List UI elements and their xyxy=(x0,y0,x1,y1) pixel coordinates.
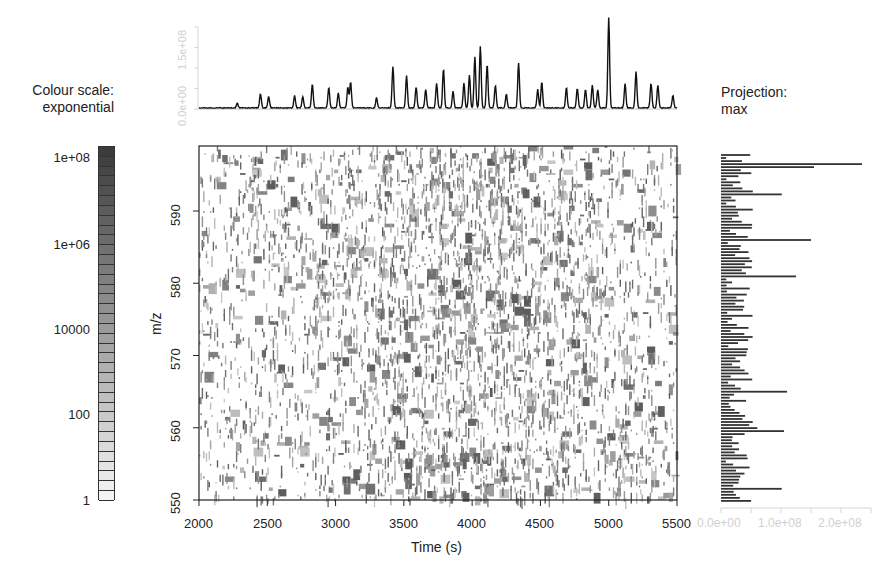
heatmap-cell xyxy=(254,352,255,361)
heatmap-cell xyxy=(556,316,557,327)
heatmap-cell xyxy=(435,428,436,435)
heatmap-cell xyxy=(285,244,286,249)
heatmap-cell xyxy=(520,247,521,254)
heatmap-cell xyxy=(352,170,353,172)
heatmap-cell xyxy=(258,406,259,415)
heatmap-cell xyxy=(571,229,572,234)
heatmap-cell xyxy=(388,291,389,300)
heatmap-cell xyxy=(478,412,479,416)
heatmap-cell xyxy=(502,350,503,361)
heatmap-cell xyxy=(382,439,383,443)
heatmap-cell xyxy=(643,395,646,399)
heatmap-cell xyxy=(547,160,555,164)
heatmap-cell xyxy=(437,383,444,385)
heatmap-cell xyxy=(340,413,341,417)
heatmap-cell xyxy=(428,388,429,390)
heatmap-cell xyxy=(446,431,447,438)
heatmap-cell xyxy=(430,466,436,477)
heatmap-cell xyxy=(547,300,548,311)
heatmap-cell xyxy=(594,468,595,477)
heatmap-cell xyxy=(284,207,292,211)
heatmap-cell xyxy=(525,231,526,236)
heatmap-cell xyxy=(266,303,267,312)
heatmap-cell xyxy=(356,381,357,383)
heatmap-cell xyxy=(233,222,234,231)
heatmap-cell xyxy=(523,153,524,155)
heatmap-cell xyxy=(379,366,380,368)
heatmap-cell xyxy=(596,372,597,383)
heatmap-cell xyxy=(415,341,416,350)
projection-bar xyxy=(721,452,735,454)
heatmap-cell xyxy=(554,339,555,346)
heatmap-cell xyxy=(666,314,667,321)
heatmap-cell xyxy=(435,350,436,352)
heatmap-cell xyxy=(553,211,554,216)
heatmap-cell xyxy=(602,296,603,303)
heatmap-cell xyxy=(456,339,464,344)
heatmap-cell xyxy=(310,426,311,437)
heatmap-cell xyxy=(457,347,458,356)
heatmap-cell xyxy=(338,262,339,264)
heatmap-cell xyxy=(547,256,548,258)
heatmap-cell xyxy=(301,301,302,303)
heatmap-cell xyxy=(472,179,473,184)
heatmap-cell xyxy=(510,300,511,307)
heatmap-cell xyxy=(472,457,473,459)
projection-bar xyxy=(721,188,742,190)
heatmap-cell xyxy=(643,372,644,377)
heatmap-cell xyxy=(403,410,404,412)
projection-bar xyxy=(721,191,753,193)
heatmap-cell xyxy=(236,285,240,289)
heatmap-cell xyxy=(621,448,622,450)
heatmap-cell xyxy=(622,260,623,269)
heatmap-cell xyxy=(506,493,507,495)
heatmap-cell xyxy=(254,422,255,426)
heatmap-cell xyxy=(311,368,312,375)
heatmap-cell xyxy=(224,278,225,285)
heatmap-cell xyxy=(430,366,431,368)
heatmap-cell xyxy=(386,356,387,358)
heatmap-cell xyxy=(404,269,405,274)
heatmap-cell xyxy=(368,218,374,222)
heatmap-cell xyxy=(513,446,514,448)
heatmap-cell xyxy=(516,206,517,215)
heatmap-cell xyxy=(557,493,558,495)
heatmap-cell xyxy=(348,348,358,353)
heatmap-cell xyxy=(513,343,514,352)
heatmap-cell xyxy=(408,332,409,339)
heatmap-cell xyxy=(564,393,565,395)
x-tick-2000: 2000 xyxy=(184,516,213,531)
heatmap-cell xyxy=(475,251,482,255)
heatmap-cell xyxy=(394,298,395,303)
heatmap-cell xyxy=(412,175,413,184)
heatmap-cell xyxy=(450,408,451,410)
heatmap-cell xyxy=(655,466,656,473)
heatmap-cell xyxy=(521,406,522,413)
heatmap-cell xyxy=(379,216,380,218)
heatmap-cell xyxy=(441,260,442,265)
heatmap-cell xyxy=(655,258,656,269)
heatmap-cell xyxy=(347,189,348,193)
heatmap-cell xyxy=(484,328,485,335)
heatmap-cell xyxy=(243,337,244,341)
heatmap-cell xyxy=(277,390,278,399)
heatmap-cell xyxy=(588,202,589,207)
heatmap-cell xyxy=(515,459,516,464)
heatmap-cell xyxy=(624,318,625,320)
heatmap-cell xyxy=(483,253,484,262)
heatmap-cell xyxy=(203,363,204,367)
heatmap-cell xyxy=(467,361,468,370)
heatmap-cell xyxy=(274,455,280,457)
projection-bar xyxy=(721,409,735,411)
heatmap-cell xyxy=(240,399,241,401)
heatmap-cell xyxy=(390,224,391,233)
heatmap-cell xyxy=(464,404,465,411)
heatmap-cell xyxy=(342,265,343,270)
heatmap-cell xyxy=(344,153,345,155)
heatmap-cell xyxy=(330,207,331,214)
heatmap-cell xyxy=(372,392,373,396)
heatmap-cell xyxy=(244,193,245,198)
heatmap-cell xyxy=(479,206,480,217)
heatmap-cell xyxy=(232,249,233,251)
heatmap-cell xyxy=(270,339,271,341)
